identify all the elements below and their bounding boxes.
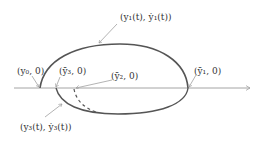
leader-ybar3	[56, 77, 60, 87]
leader-ybar1	[189, 75, 196, 87]
lower-trajectory	[56, 88, 188, 114]
leader-top-point	[99, 24, 117, 43]
label-bottom-point: (y₃(t), ẏ₃(t))	[20, 122, 71, 132]
label-ybar3: (ȳ₃, 0)	[59, 66, 86, 76]
label-ybar1: (ȳ₁, 0)	[194, 66, 221, 76]
leader-ybar2	[76, 80, 112, 88]
label-start-point: (y₀, 0)	[17, 66, 44, 76]
leader-bottom-point	[45, 104, 62, 117]
label-top-point: (y₁(t), ẏ₁(t))	[120, 12, 171, 22]
phase-diagram: (y₁(t), ẏ₁(t)) (y₀, 0) (ȳ₃, 0) (ȳ₂, 0) (…	[0, 0, 262, 143]
label-ybar2: (ȳ₂, 0)	[111, 71, 138, 81]
leader-start-point	[32, 76, 39, 87]
